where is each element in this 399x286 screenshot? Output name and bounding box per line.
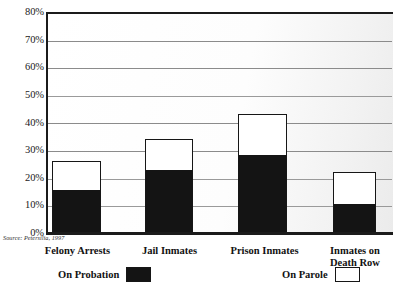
gridline-60	[48, 68, 392, 69]
bar-segment-on-probation	[53, 190, 100, 232]
y-axis-line	[46, 12, 48, 235]
y-tick-70: 70%	[2, 35, 44, 45]
y-axis-tick-labels: 80% 70% 60% 50% 40% 30% 20% 10% 0%	[0, 0, 44, 286]
chart-legend: On Probation On Parole	[0, 265, 399, 286]
bar-prison-inmates	[238, 114, 287, 233]
y-tick-60: 60%	[2, 62, 44, 72]
y-tick-30: 30%	[2, 145, 44, 155]
y-tick-20: 20%	[2, 173, 44, 183]
legend-item-on-parole: On Parole	[282, 267, 360, 282]
source-note: Source: Petersilia, 1997	[3, 234, 64, 241]
legend-item-on-probation: On Probation	[58, 267, 151, 282]
y-tick-80: 80%	[2, 7, 44, 17]
y-tick-40: 40%	[2, 118, 44, 128]
gridline-40	[48, 123, 392, 124]
legend-label-on-probation: On Probation	[58, 269, 119, 280]
x-axis-line	[47, 232, 393, 235]
legend-swatch-on-probation	[126, 267, 151, 282]
gridline-50	[48, 96, 392, 97]
gridline-30	[48, 151, 392, 152]
plot-area	[47, 12, 393, 233]
x-label-prison-inmates: Prison Inmates	[207, 245, 322, 257]
bar-felony-arrests	[52, 161, 101, 233]
legend-label-on-parole: On Parole	[282, 269, 328, 280]
bar-inmates-on-death-row	[333, 172, 376, 233]
y-tick-50: 50%	[2, 90, 44, 100]
gridline-70	[48, 41, 392, 42]
stacked-bar-chart: 80% 70% 60% 50% 40% 30% 20% 10% 0%	[0, 0, 399, 286]
bar-segment-on-probation	[146, 170, 192, 232]
y-tick-10: 10%	[2, 200, 44, 210]
legend-swatch-on-parole	[335, 267, 360, 282]
bar-segment-on-probation	[334, 204, 375, 232]
x-label-death-row-line1: Inmates on	[330, 245, 399, 257]
bar-segment-on-probation	[239, 155, 286, 232]
bar-jail-inmates	[145, 139, 193, 233]
